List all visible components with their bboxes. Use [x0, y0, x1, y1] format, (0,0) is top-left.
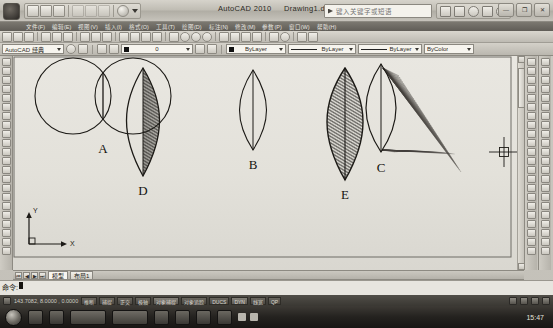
status-toggle-3[interactable]: 极轴: [135, 297, 151, 305]
search-icon[interactable]: [454, 6, 465, 17]
status-toggle-5[interactable]: 对象追踪: [181, 297, 207, 305]
circle-icon[interactable]: [2, 112, 11, 120]
redo-icon[interactable]: [152, 32, 162, 42]
menu-item-5[interactable]: 工具(T): [156, 23, 175, 31]
menu-item-6[interactable]: 绘图(D): [182, 23, 202, 31]
status-toggle-9[interactable]: QP: [268, 297, 281, 305]
dim-style-control-icon[interactable]: [541, 229, 550, 237]
extend-icon[interactable]: [527, 148, 536, 156]
bring-above-icon[interactable]: [527, 229, 536, 237]
new-icon[interactable]: [2, 32, 12, 42]
help-icon[interactable]: [280, 32, 290, 42]
linetype-select[interactable]: ByLayer: [288, 44, 356, 54]
network-icon[interactable]: [238, 313, 246, 321]
minimize-button[interactable]: —: [498, 3, 514, 17]
undo-icon[interactable]: [141, 32, 151, 42]
plotstyle-select[interactable]: ByColor: [424, 44, 474, 54]
layout-tab-1[interactable]: 布局1: [70, 271, 93, 279]
bring-to-front-icon[interactable]: [527, 211, 536, 219]
taskbar-pinned-icon-4[interactable]: [175, 310, 190, 325]
tolerance-icon[interactable]: [541, 166, 550, 174]
dim-style-icon[interactable]: [541, 238, 550, 246]
region-icon[interactable]: [2, 202, 11, 210]
layout-nav-button-3[interactable]: ⏭: [39, 272, 46, 279]
menu-item-8[interactable]: 修改(M): [235, 23, 255, 31]
sheetset-icon[interactable]: [252, 32, 262, 42]
chevron-down-icon[interactable]: [279, 48, 283, 51]
fillet-icon[interactable]: [527, 193, 536, 201]
erase-icon[interactable]: [527, 58, 536, 66]
taskbar-window-2[interactable]: [112, 310, 148, 325]
status-toggle-2[interactable]: 正交: [117, 297, 133, 305]
arc-length-dim-icon[interactable]: [541, 76, 550, 84]
hatch-icon[interactable]: [2, 184, 11, 192]
viewport-lock-icon[interactable]: [531, 297, 539, 305]
status-toggle-1[interactable]: 捕捉: [99, 297, 115, 305]
menu-item-7[interactable]: 标注(N): [209, 23, 229, 31]
center-mark-icon[interactable]: [541, 175, 550, 183]
copy-icon[interactable]: [91, 32, 101, 42]
offset-icon[interactable]: [527, 85, 536, 93]
layer-select[interactable]: 0: [121, 44, 193, 54]
status-toggle-8[interactable]: 线宽: [250, 297, 266, 305]
jogged-linear-icon[interactable]: [541, 193, 550, 201]
paste-icon[interactable]: [102, 32, 112, 42]
join-icon[interactable]: [527, 175, 536, 183]
workspace-settings-icon[interactable]: [66, 44, 76, 54]
menu-item-11[interactable]: 帮助(H): [317, 23, 337, 31]
chevron-down-icon[interactable]: [415, 48, 419, 51]
status-toggle-4[interactable]: 对象捕捉: [153, 297, 179, 305]
drawing-canvas[interactable]: A B C D E Y X: [13, 56, 524, 270]
menu-item-10[interactable]: 窗口(W): [289, 23, 310, 31]
status-menu-icon[interactable]: [3, 297, 11, 305]
shape-b[interactable]: [240, 70, 267, 150]
ellipse-arc-icon[interactable]: [2, 148, 11, 156]
workspace-lock-icon[interactable]: [78, 44, 88, 54]
taskbar-window-1[interactable]: [70, 310, 106, 325]
move-icon[interactable]: [527, 103, 536, 111]
inspect-icon[interactable]: [541, 184, 550, 192]
chevron-down-icon[interactable]: [349, 48, 353, 51]
arc-icon[interactable]: [2, 103, 11, 111]
add-selected-icon[interactable]: [2, 229, 11, 237]
layer-previous-icon[interactable]: [195, 44, 205, 54]
chamfer-icon[interactable]: [527, 184, 536, 192]
layout-nav-button-0[interactable]: ⏮: [15, 272, 22, 279]
command-line-area[interactable]: 命令:: [0, 280, 553, 295]
make-block-icon[interactable]: [2, 166, 11, 174]
rectangle-icon[interactable]: [2, 94, 11, 102]
preview-icon[interactable]: [52, 32, 62, 42]
array-icon[interactable]: [527, 94, 536, 102]
point-icon[interactable]: [2, 175, 11, 183]
start-button[interactable]: [5, 309, 22, 326]
clean-screen-icon[interactable]: [542, 297, 550, 305]
radius-dim-icon[interactable]: [541, 94, 550, 102]
trim-icon[interactable]: [527, 139, 536, 147]
publish-icon[interactable]: [63, 32, 73, 42]
search-box[interactable]: [324, 4, 432, 18]
send-to-back-icon[interactable]: [527, 220, 536, 228]
mirror-icon[interactable]: [527, 76, 536, 84]
diameter-dim-icon[interactable]: [541, 112, 550, 120]
edit-hatch-icon[interactable]: [527, 247, 536, 255]
restore-button[interactable]: ❐: [516, 3, 532, 17]
line-icon[interactable]: [2, 58, 11, 66]
dim-override-icon[interactable]: [541, 247, 550, 255]
edit-dim-icon[interactable]: [541, 202, 550, 210]
quick-dim-icon[interactable]: [541, 130, 550, 138]
layout-nav-button-2[interactable]: ▶: [31, 272, 38, 279]
linear-dim-icon[interactable]: [541, 58, 550, 66]
break-at-point-icon[interactable]: [527, 157, 536, 165]
explode-icon[interactable]: [527, 202, 536, 210]
menu-item-1[interactable]: 编辑(E): [52, 23, 71, 31]
taskbar-pinned-icon-6[interactable]: [217, 310, 232, 325]
toolpalettes-icon[interactable]: [241, 32, 251, 42]
gradient-icon[interactable]: [2, 193, 11, 201]
menu-item-9[interactable]: 参数(P): [262, 23, 281, 31]
shape-d[interactable]: [127, 68, 170, 178]
search-input[interactable]: [336, 8, 428, 15]
workspace-select[interactable]: AutoCAD 经典: [2, 44, 64, 54]
open-icon[interactable]: [13, 32, 23, 42]
chevron-down-icon[interactable]: [186, 48, 190, 51]
angular-dim-icon[interactable]: [541, 121, 550, 129]
